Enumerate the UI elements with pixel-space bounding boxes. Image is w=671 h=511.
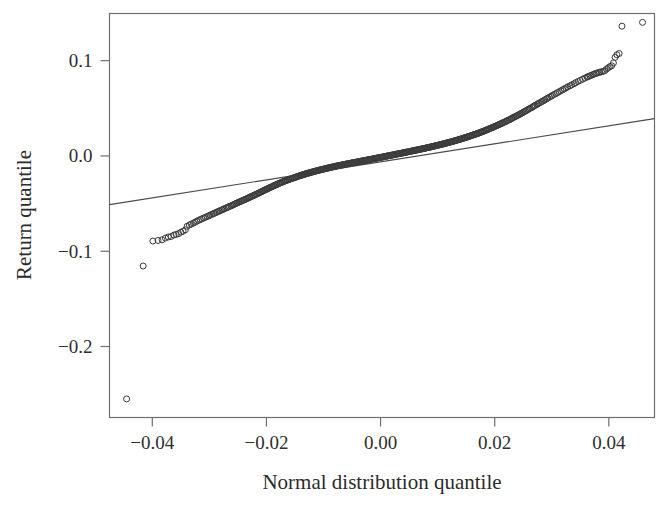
plot-frame: [110, 14, 655, 418]
data-point: [619, 23, 625, 29]
x-tick-label: 0.00: [364, 432, 397, 453]
y-tick-label: 0.0: [69, 145, 93, 166]
x-axis-ticks: [152, 418, 609, 427]
y-tick-label: −0.1: [58, 241, 92, 262]
y-axis-title: Return quantile: [12, 150, 36, 280]
x-tick-label: −0.02: [244, 432, 288, 453]
qq-reference-line: [110, 119, 655, 205]
data-point: [640, 19, 646, 25]
x-tick-label: 0.04: [592, 432, 626, 453]
x-axis-title: Normal distribution quantile: [262, 470, 501, 494]
x-tick-label: 0.02: [478, 432, 511, 453]
y-axis-ticks: [101, 61, 110, 347]
x-axis-tick-labels: −0.04−0.020.000.020.04: [130, 432, 626, 453]
y-axis-tick-labels: 0.10.0−0.1−0.2: [58, 50, 92, 357]
qq-plot-canvas: −0.04−0.020.000.020.04 0.10.0−0.1−0.2 No…: [0, 0, 671, 511]
y-tick-label: 0.1: [69, 50, 93, 71]
x-tick-label: −0.04: [130, 432, 174, 453]
qq-data-points: [124, 19, 646, 402]
data-point: [140, 263, 146, 269]
qq-plot-figure: −0.04−0.020.000.020.04 0.10.0−0.1−0.2 No…: [0, 0, 671, 511]
data-point: [124, 396, 130, 402]
y-tick-label: −0.2: [58, 336, 92, 357]
